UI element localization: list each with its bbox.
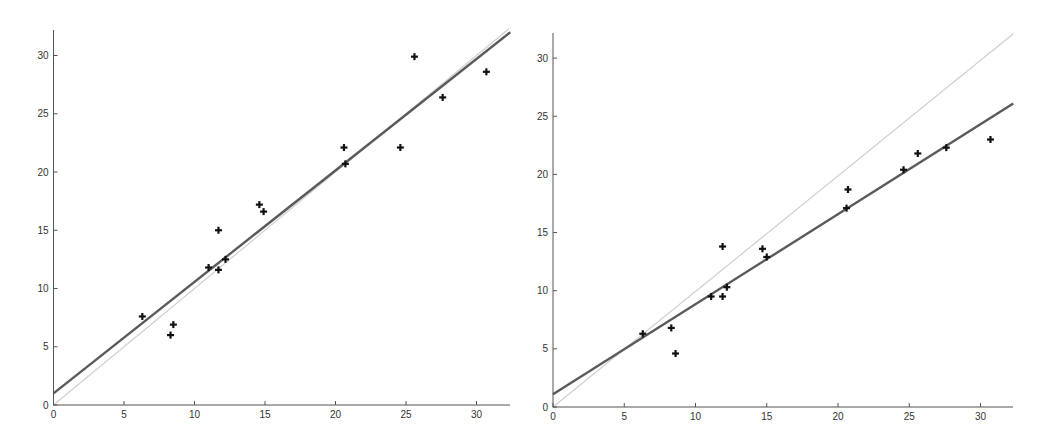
plus-marker-icon bbox=[668, 324, 675, 331]
y-tick-label: 30 bbox=[537, 53, 549, 64]
y-tick-label: 25 bbox=[537, 111, 549, 122]
plus-marker-icon bbox=[672, 350, 679, 357]
plus-marker-icon bbox=[719, 293, 726, 300]
x-tick-label: 10 bbox=[690, 411, 702, 422]
line-series bbox=[553, 34, 1013, 407]
y-tick-label: 0 bbox=[542, 402, 548, 413]
plus-marker-icon bbox=[719, 243, 726, 250]
y-tick-label: 20 bbox=[537, 169, 549, 180]
plus-marker-icon bbox=[759, 245, 766, 252]
scatter-chart-right: 051015202530051015202530 bbox=[0, 0, 1047, 448]
x-tick-label: 5 bbox=[621, 411, 627, 422]
x-tick-label: 25 bbox=[904, 411, 916, 422]
plus-marker-icon bbox=[844, 186, 851, 193]
plus-marker-icon bbox=[914, 150, 921, 157]
x-tick-label: 30 bbox=[975, 411, 987, 422]
plus-marker-icon bbox=[987, 136, 994, 143]
y-tick-label: 5 bbox=[542, 343, 548, 354]
y-tick-label: 10 bbox=[537, 285, 549, 296]
x-tick-label: 15 bbox=[761, 411, 773, 422]
y-tick-label: 15 bbox=[537, 227, 549, 238]
x-tick-label: 0 bbox=[550, 411, 556, 422]
chart-panels: 051015202530051015202530 051015202530051… bbox=[0, 0, 1047, 448]
data-points bbox=[639, 136, 994, 357]
x-tick-label: 20 bbox=[832, 411, 844, 422]
